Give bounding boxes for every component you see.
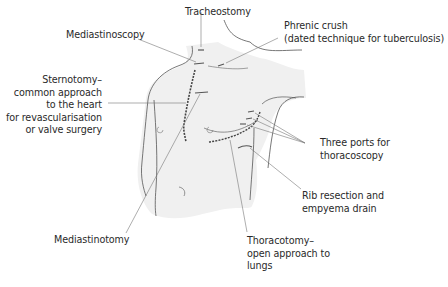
label-thoracotomy: Thoracotomy– open approach to lungs xyxy=(247,235,330,273)
leader-rib-resection xyxy=(250,148,301,189)
label-mediastinotomy: Mediastinotomy xyxy=(54,234,129,247)
label-mediastinoscopy: Mediastinoscopy xyxy=(66,29,145,42)
neck-right-outline xyxy=(224,20,250,42)
chest-incisions-diagram: Tracheostomy Mediastinoscopy Phrenic cru… xyxy=(0,0,448,287)
label-rib-resection: Rib resection and empyema drain xyxy=(302,190,384,215)
label-tracheostomy: Tracheostomy xyxy=(185,6,251,19)
label-three-ports: Three ports for thoracoscopy xyxy=(320,137,390,162)
label-sternotomy: Sternotomy– common approach to the heart… xyxy=(0,74,102,137)
label-phrenic-crush: Phrenic crush (dated technique for tuber… xyxy=(284,20,444,45)
